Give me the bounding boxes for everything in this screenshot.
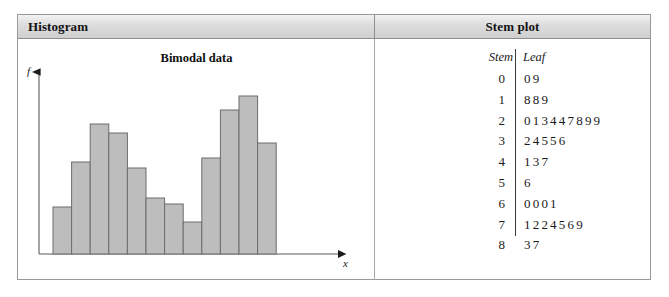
stem-value: 8 bbox=[455, 237, 505, 253]
stem-row: 2013447899 bbox=[375, 113, 650, 134]
comparison-table-frame: Histogram Stem plot Bimodal data bbox=[17, 14, 651, 280]
header-cell-histogram: Histogram bbox=[18, 15, 375, 38]
stem-row: 56 bbox=[375, 175, 650, 196]
stem-row: 837 bbox=[375, 237, 650, 258]
stem-plot-panel: Stem Leaf 009188920134478993245564137566… bbox=[375, 39, 650, 280]
leaf-values: 0001 bbox=[524, 196, 559, 212]
histogram-bars bbox=[53, 96, 276, 254]
stem-row: 324556 bbox=[375, 133, 650, 154]
stem-plot-header-label: Stem plot bbox=[486, 19, 540, 35]
stem-row: 4137 bbox=[375, 154, 650, 175]
stem-value: 5 bbox=[455, 175, 505, 191]
table-body-row: Bimodal data f bbox=[18, 39, 650, 280]
histogram-bar bbox=[258, 143, 277, 254]
histogram-bar bbox=[220, 110, 239, 254]
histogram-chart: f x bbox=[18, 39, 375, 280]
leaf-values: 6 bbox=[524, 175, 533, 191]
table-header-row: Histogram Stem plot bbox=[18, 15, 650, 39]
leaf-column-header: Leaf bbox=[523, 50, 545, 65]
stem-row: 009 bbox=[375, 71, 650, 92]
y-axis: f bbox=[27, 65, 39, 254]
stem-column-header: Stem bbox=[455, 50, 513, 65]
leaf-values: 1224569 bbox=[524, 217, 585, 233]
x-axis: x bbox=[39, 254, 348, 269]
histogram-bar bbox=[72, 162, 91, 254]
stem-value: 7 bbox=[455, 217, 505, 233]
leaf-values: 889 bbox=[524, 92, 550, 108]
histogram-bar bbox=[183, 222, 202, 254]
histogram-header-label: Histogram bbox=[28, 19, 88, 35]
histogram-bar bbox=[53, 207, 72, 254]
leaf-values: 013447899 bbox=[524, 113, 602, 129]
stem-row: 60001 bbox=[375, 196, 650, 217]
leaf-values: 09 bbox=[524, 71, 541, 87]
stem-value: 2 bbox=[455, 113, 505, 129]
stem-value: 0 bbox=[455, 71, 505, 87]
histogram-bar bbox=[239, 96, 258, 254]
stem-row: 1889 bbox=[375, 92, 650, 113]
stem-value: 1 bbox=[455, 92, 505, 108]
stem-value: 4 bbox=[455, 154, 505, 170]
page-root: Histogram Stem plot Bimodal data bbox=[0, 0, 669, 297]
histogram-bar bbox=[165, 204, 184, 254]
histogram-bar bbox=[146, 198, 165, 254]
stem-value: 3 bbox=[455, 133, 505, 149]
stem-row: 71224569 bbox=[375, 217, 650, 238]
histogram-bar bbox=[90, 124, 109, 254]
x-axis-label: x bbox=[342, 257, 348, 269]
leaf-values: 137 bbox=[524, 154, 550, 170]
histogram-bar bbox=[202, 158, 221, 254]
stem-value: 6 bbox=[455, 196, 505, 212]
histogram-panel: Bimodal data f bbox=[18, 39, 375, 280]
y-axis-label: f bbox=[27, 65, 32, 77]
histogram-bar bbox=[109, 133, 128, 254]
header-cell-stem-plot: Stem plot bbox=[375, 15, 650, 38]
leaf-values: 37 bbox=[524, 237, 541, 253]
leaf-values: 24556 bbox=[524, 133, 568, 149]
histogram-bar bbox=[127, 168, 146, 254]
stem-leaf-table: Stem Leaf 009188920134478993245564137566… bbox=[375, 39, 650, 280]
